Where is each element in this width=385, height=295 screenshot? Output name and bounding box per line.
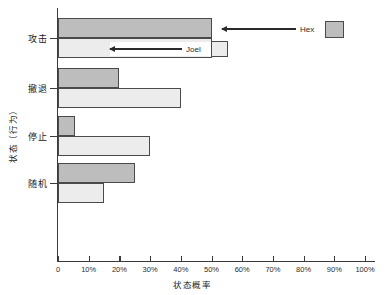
x-tick-label: 40% <box>173 265 188 274</box>
x-tick <box>89 256 90 262</box>
x-tick-label: 20% <box>112 265 127 274</box>
x-tick-label: 70% <box>265 265 280 274</box>
x-tick-label: 30% <box>143 265 158 274</box>
y-tick <box>50 88 58 89</box>
arrow-icon <box>110 48 182 49</box>
x-tick <box>273 256 274 262</box>
legend-callout-hex: Hex <box>222 22 344 36</box>
y-tick-label: 随机 <box>28 177 47 190</box>
x-tick-label: 60% <box>235 265 250 274</box>
y-tick-label: 撤退 <box>28 82 47 95</box>
bar-joel-1 <box>58 88 181 108</box>
x-tick-label: 10% <box>81 265 96 274</box>
x-tick-label: 90% <box>327 265 342 274</box>
y-axis-title: 状态（行为） <box>6 84 18 184</box>
x-tick <box>58 256 59 262</box>
x-tick <box>242 256 243 262</box>
y-tick <box>50 38 58 39</box>
x-tick <box>181 256 182 262</box>
bar-chart: 010%20%30%40%50%60%70%80%90%100% 攻击撤退停止随… <box>0 0 385 295</box>
x-tick <box>212 256 213 262</box>
bar-hex-0 <box>58 18 212 38</box>
legend-callout-joel: Joel <box>110 42 228 56</box>
x-tick <box>150 256 151 262</box>
legend-swatch-hex <box>325 21 344 38</box>
legend-label-hex: Hex <box>296 25 318 34</box>
y-tick-label: 停止 <box>28 130 47 143</box>
bar-hex-3 <box>58 163 135 183</box>
bar-joel-2 <box>58 136 150 156</box>
x-tick-label: 100% <box>355 265 374 274</box>
legend-swatch-joel <box>211 41 228 57</box>
y-tick <box>50 136 58 137</box>
x-tick-label: 50% <box>204 265 219 274</box>
x-tick <box>304 256 305 262</box>
x-tick-label: 0 <box>56 265 60 274</box>
y-tick-label: 攻击 <box>28 32 47 45</box>
bar-hex-2 <box>58 116 75 136</box>
legend-label-joel: Joel <box>182 45 205 54</box>
x-tick-label: 80% <box>296 265 311 274</box>
x-axis-title: 状态概率 <box>0 278 385 290</box>
bar-hex-1 <box>58 68 119 88</box>
arrow-icon <box>222 28 296 29</box>
x-tick <box>334 256 335 262</box>
bar-joel-3 <box>58 183 104 203</box>
x-axis-line <box>57 261 375 262</box>
x-tick <box>119 256 120 262</box>
x-tick <box>365 256 366 262</box>
y-tick <box>50 183 58 184</box>
